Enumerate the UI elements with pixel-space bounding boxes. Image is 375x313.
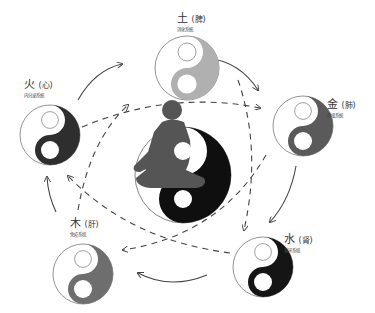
system-name: 免疫系统 xyxy=(70,232,99,238)
center-yin-yang xyxy=(134,100,231,223)
arrow-water-to-wood xyxy=(138,273,207,282)
arrow-fire-to-earth xyxy=(78,64,122,100)
element-name: 土 (脾) xyxy=(177,13,206,26)
label-metal: 金 (肺)呼吸系統 xyxy=(327,99,356,119)
system-name: 循环系统 xyxy=(284,248,313,254)
label-wood: 木 (肝)免疫系统 xyxy=(70,218,99,238)
yin-yang-earth xyxy=(155,36,219,100)
yang-dot xyxy=(174,142,192,160)
system-name: 呼吸系統 xyxy=(327,113,356,119)
system-name: 消化系統 xyxy=(177,27,206,33)
label-water: 水 (肾)循环系统 xyxy=(284,234,313,254)
yin-dot xyxy=(174,190,192,208)
arrow-metal-to-water xyxy=(270,166,296,222)
label-earth: 土 (脾)消化系統 xyxy=(177,13,206,33)
yin-yang-fire xyxy=(20,105,80,165)
arrow-earth-to-water xyxy=(238,80,252,230)
label-fire: 火 (心)内分泌系統 xyxy=(24,79,53,99)
five-elements-diagram xyxy=(0,0,375,313)
yin-yang-wood xyxy=(53,244,113,304)
arrow-wood-to-fire xyxy=(47,177,56,212)
element-name: 水 (肾) xyxy=(284,234,313,247)
yin-yang-metal xyxy=(273,96,333,156)
element-name: 金 (肺) xyxy=(327,99,356,112)
element-name: 木 (肝) xyxy=(70,218,99,231)
arrow-wood-to-earth xyxy=(78,105,128,210)
element-name: 火 (心) xyxy=(24,79,53,92)
system-name: 内分泌系統 xyxy=(24,93,53,99)
